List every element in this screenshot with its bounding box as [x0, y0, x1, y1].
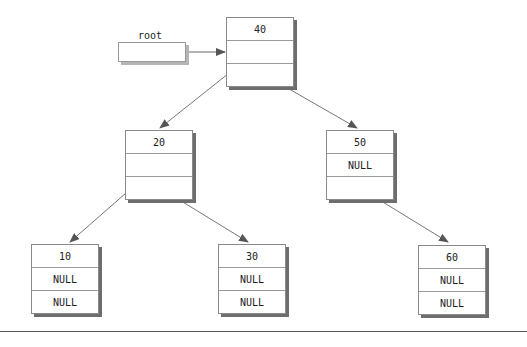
- node-value: 20: [126, 131, 192, 154]
- node-value: 30: [219, 245, 285, 268]
- node-left-pointer: NULL: [32, 268, 98, 291]
- node-left-pointer: [126, 154, 192, 177]
- node-right-pointer: NULL: [32, 291, 98, 313]
- tree-node-40: 40: [226, 17, 294, 87]
- node-left-pointer: [227, 41, 293, 64]
- tree-node-30: 30 NULL NULL: [218, 244, 286, 314]
- root-label: root: [138, 30, 162, 41]
- node-value: 10: [32, 245, 98, 268]
- node-left-pointer: NULL: [327, 154, 393, 177]
- node-right-pointer: [327, 177, 393, 199]
- tree-node-60: 60 NULL NULL: [418, 245, 486, 315]
- node-right-pointer: NULL: [219, 291, 285, 313]
- bottom-rule: [0, 331, 527, 332]
- root-pointer-box: [118, 42, 186, 62]
- tree-node-10: 10 NULL NULL: [31, 244, 99, 314]
- node-left-pointer: NULL: [219, 268, 285, 291]
- node-value: 60: [419, 246, 485, 269]
- tree-node-50: 50 NULL: [326, 130, 394, 200]
- node-right-pointer: [126, 177, 192, 199]
- node-value: 50: [327, 131, 393, 154]
- node-right-pointer: [227, 64, 293, 86]
- node-left-pointer: NULL: [419, 269, 485, 292]
- tree-node-20: 20: [125, 130, 193, 200]
- node-right-pointer: NULL: [419, 292, 485, 314]
- node-value: 40: [227, 18, 293, 41]
